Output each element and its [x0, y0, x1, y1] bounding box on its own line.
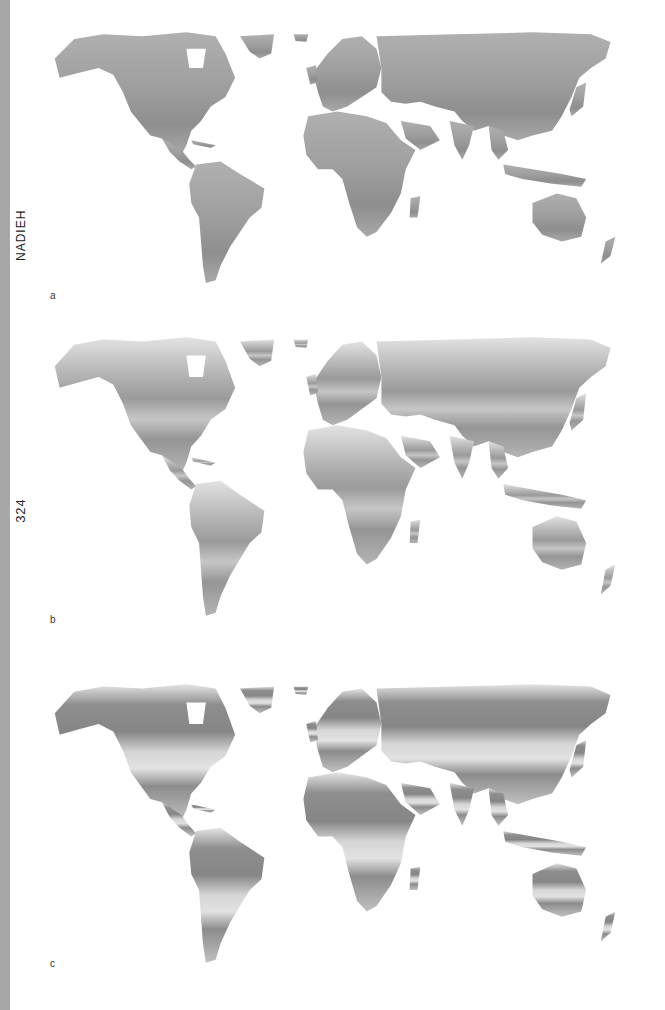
panel-label-c: c	[50, 958, 55, 969]
page-edge-bar	[0, 0, 10, 1010]
world-map-c	[45, 665, 630, 965]
world-map-a	[45, 15, 630, 285]
page-number: 324	[13, 496, 28, 526]
world-map-b	[45, 318, 630, 618]
panel-label-b: b	[50, 614, 56, 625]
panel-label-a: a	[50, 290, 56, 301]
running-head-author: NADIEH	[14, 219, 28, 261]
